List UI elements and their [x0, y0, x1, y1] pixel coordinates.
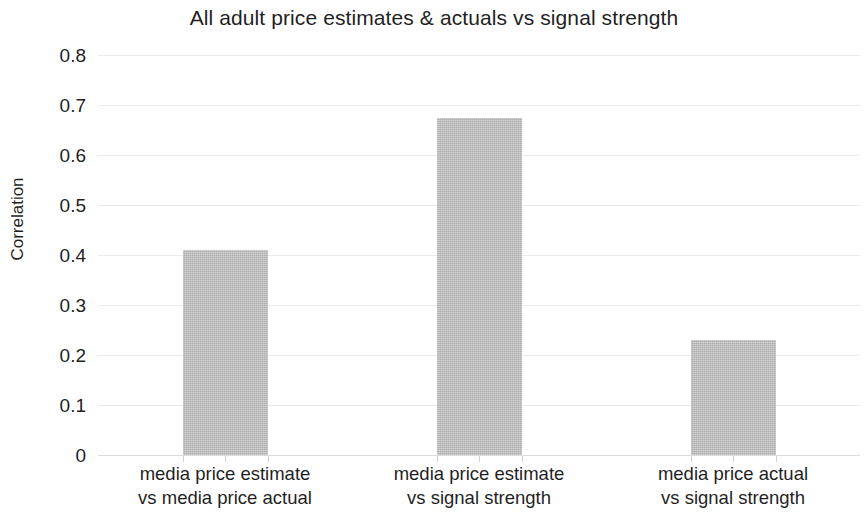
y-axis-tick-label: 0 [8, 446, 86, 465]
x-axis-label-line: vs signal strength [606, 486, 860, 510]
x-axis-category-label: media price estimatevs signal strength [352, 462, 606, 510]
plot-area [98, 55, 860, 455]
y-axis-tick-label: 0.5 [8, 196, 86, 215]
y-axis-tick-label: 0.8 [8, 46, 86, 65]
bar[interactable] [437, 118, 522, 456]
y-axis-tick-label: 0.4 [8, 246, 86, 265]
x-axis-label-line: vs signal strength [352, 486, 606, 510]
x-axis-category-label: media price estimatevs media price actua… [98, 462, 352, 510]
y-axis-tick-label: 0.2 [8, 346, 86, 365]
y-axis-tick-label: 0.7 [8, 96, 86, 115]
x-axis-label-line: media price estimate [352, 462, 606, 486]
bar[interactable] [691, 340, 776, 455]
chart-page: All adult price estimates & actuals vs s… [0, 0, 868, 514]
gridline [98, 55, 860, 56]
y-axis-tick-label: 0.6 [8, 146, 86, 165]
x-axis-label-line: media price estimate [98, 462, 352, 486]
chart-title: All adult price estimates & actuals vs s… [0, 6, 868, 30]
gridline [98, 105, 860, 106]
x-axis-label-line: vs media price actual [98, 486, 352, 510]
x-axis-label-line: media price actual [606, 462, 860, 486]
y-axis-tick-label: 0.1 [8, 396, 86, 415]
x-axis-category-label: media price actualvs signal strength [606, 462, 860, 510]
bar[interactable] [183, 250, 268, 455]
y-axis-tick-label: 0.3 [8, 296, 86, 315]
